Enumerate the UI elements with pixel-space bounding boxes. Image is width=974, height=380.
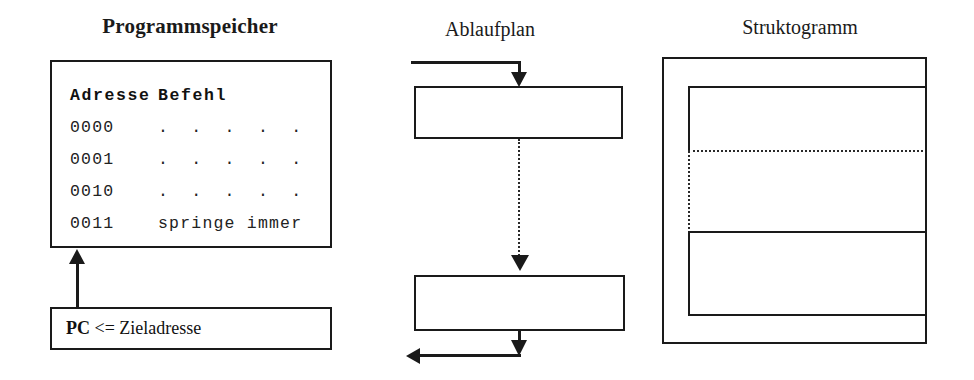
memory-header-instruction: Befehl bbox=[158, 86, 227, 105]
structogram-dotted-left-edge bbox=[688, 151, 690, 233]
flow-process-box-1 bbox=[414, 86, 623, 139]
programmspeicher-title: Programmspeicher bbox=[0, 14, 380, 39]
structogram-block-3 bbox=[688, 231, 927, 316]
memory-row-instruction: . . . . . bbox=[158, 118, 302, 137]
flow-top-reentry-horizontal bbox=[411, 61, 521, 64]
structogram-middle-right-edge bbox=[925, 150, 928, 232]
diagram-canvas: Programmspeicher AdresseBefehl 0000. . .… bbox=[0, 0, 974, 380]
flow-bottom-loopback-horizontal bbox=[418, 354, 521, 357]
memory-table-header: AdresseBefehl bbox=[70, 80, 302, 112]
table-row: 0011springe immer bbox=[70, 208, 302, 240]
memory-row-instruction: springe immer bbox=[158, 214, 302, 233]
flow-process-box-2 bbox=[414, 275, 625, 331]
memory-row-address: 0000 bbox=[70, 112, 158, 144]
ablaufplan-title: Ablaufplan bbox=[400, 18, 580, 41]
memory-row-address: 0001 bbox=[70, 144, 158, 176]
arrow-down-icon bbox=[511, 255, 529, 271]
memory-row-address: 0010 bbox=[70, 176, 158, 208]
memory-table: AdresseBefehl 0000. . . . . 0001. . . . … bbox=[70, 80, 302, 240]
pc-assignment-value: <= Zieladresse bbox=[95, 318, 202, 338]
memory-header-address: Adresse bbox=[70, 80, 158, 112]
pc-arrow-shaft bbox=[76, 262, 79, 307]
structogram-dotted-divider bbox=[688, 150, 927, 152]
arrow-down-icon bbox=[511, 72, 527, 87]
memory-row-address: 0011 bbox=[70, 208, 158, 240]
pc-register-name: PC bbox=[66, 318, 90, 338]
table-row: 0010. . . . . bbox=[70, 176, 302, 208]
arrow-up-icon bbox=[69, 249, 85, 264]
memory-row-instruction: . . . . . bbox=[158, 150, 302, 169]
memory-row-instruction: . . . . . bbox=[158, 182, 302, 201]
structogram-block-1 bbox=[688, 86, 927, 152]
table-row: 0001. . . . . bbox=[70, 144, 302, 176]
program-memory-box: AdresseBefehl 0000. . . . . 0001. . . . … bbox=[50, 60, 332, 248]
program-counter-box: PC <= Zieladresse bbox=[50, 307, 332, 350]
program-counter-label: PC <= Zieladresse bbox=[66, 318, 201, 339]
table-row: 0000. . . . . bbox=[70, 112, 302, 144]
arrow-left-icon bbox=[406, 348, 420, 364]
struktogramm-title: Struktogramm bbox=[700, 16, 900, 39]
flow-dotted-connector bbox=[518, 139, 520, 256]
